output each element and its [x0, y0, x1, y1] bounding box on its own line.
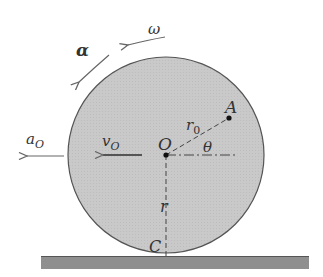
contact-C-label: C	[149, 237, 161, 256]
a-O-label: aO	[26, 130, 44, 151]
alpha-label: α	[76, 40, 89, 60]
ground-surface	[41, 256, 309, 269]
wheel-diagram: ω α aO vO O A r0 θ r C	[0, 0, 323, 277]
point-A-label: A	[223, 97, 237, 117]
radius-r-label: r	[160, 197, 169, 216]
omega-arrow	[128, 37, 165, 45]
omega-label: ω	[148, 20, 160, 38]
theta-label: θ	[203, 138, 212, 156]
center-O-label: O	[158, 134, 172, 154]
